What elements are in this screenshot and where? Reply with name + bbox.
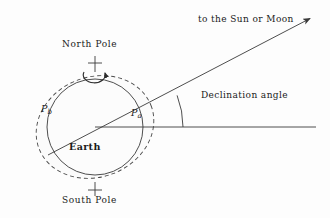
- declination-angle-arc: [177, 95, 183, 127]
- south-pole-label: South Pole: [62, 196, 117, 205]
- point-b-label: Pb: [41, 104, 52, 116]
- point-a-label: Pa: [131, 108, 142, 120]
- declination-angle-label: Declination angle: [201, 91, 288, 100]
- north-pole-label: North Pole: [62, 40, 117, 49]
- to-sun-or-moon-label: to the Sun or Moon: [198, 15, 294, 24]
- diagram-figure: North Pole South Pole Earth to the Sun o…: [0, 0, 330, 218]
- point-a-subscript: a: [137, 112, 141, 120]
- point-b-subscript: b: [47, 108, 51, 116]
- earth-label: Earth: [69, 142, 101, 152]
